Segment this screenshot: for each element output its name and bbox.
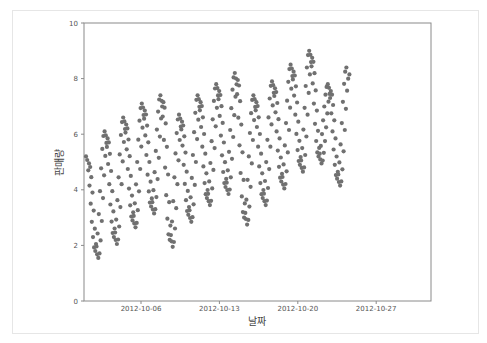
data-point (171, 245, 175, 249)
data-point (131, 210, 135, 214)
data-point (165, 217, 169, 221)
data-point (237, 83, 241, 87)
data-point (293, 113, 297, 117)
data-point (98, 189, 102, 193)
data-point (322, 151, 326, 155)
data-point (343, 70, 347, 74)
data-point (218, 93, 222, 97)
data-point (232, 113, 236, 117)
data-point (175, 182, 179, 186)
data-point (287, 128, 291, 132)
data-point (298, 163, 302, 167)
data-point (171, 199, 175, 203)
data-point (152, 211, 156, 215)
data-point (196, 93, 200, 97)
data-point (294, 84, 298, 88)
data-point (309, 64, 313, 68)
data-point (209, 199, 213, 203)
data-point (122, 140, 126, 144)
data-point (215, 86, 219, 90)
y-axis-ticks: 0246810 (69, 20, 84, 306)
data-point (273, 110, 277, 114)
data-point (210, 139, 214, 143)
data-point (308, 53, 312, 57)
data-point (84, 154, 88, 158)
data-point (312, 102, 316, 106)
x-axis-ticks: 2012-10-062012-10-132012-10-202012-10-27 (121, 301, 397, 313)
data-point (340, 167, 344, 171)
data-point (288, 106, 292, 110)
data-point (344, 107, 348, 111)
data-point (329, 111, 333, 115)
data-point (254, 108, 258, 112)
data-point (204, 171, 208, 175)
data-point (237, 143, 241, 147)
data-point (219, 104, 223, 108)
data-point (118, 205, 122, 209)
data-point (181, 123, 185, 127)
data-point (100, 219, 104, 223)
data-point (117, 175, 121, 179)
data-point (155, 128, 159, 132)
data-point (211, 117, 215, 121)
data-point (260, 171, 264, 175)
data-point (153, 170, 157, 174)
data-point (257, 115, 261, 119)
data-point (128, 203, 132, 207)
data-point (112, 235, 116, 239)
data-point (285, 99, 289, 103)
data-point (335, 177, 339, 181)
data-point (97, 212, 101, 216)
data-point (282, 162, 286, 166)
data-point (174, 206, 178, 210)
data-point (150, 196, 154, 200)
data-point (173, 151, 177, 155)
data-point (140, 102, 144, 106)
data-point (139, 145, 143, 149)
data-point (339, 179, 343, 183)
data-point (162, 138, 166, 142)
data-point (276, 117, 280, 121)
data-point (344, 65, 348, 69)
data-point (201, 115, 205, 119)
data-point (132, 214, 136, 218)
data-point (85, 158, 89, 162)
data-point (223, 160, 227, 164)
data-point (246, 178, 250, 182)
data-point (333, 136, 337, 140)
data-point (283, 143, 287, 147)
data-point (113, 226, 117, 230)
data-point (145, 124, 149, 128)
data-point (342, 149, 346, 153)
data-point (182, 134, 186, 138)
data-point (296, 148, 300, 152)
data-point (226, 192, 230, 196)
data-point (304, 134, 308, 138)
data-point (136, 208, 140, 212)
data-point (116, 237, 120, 241)
data-point (107, 182, 111, 186)
data-point (169, 233, 173, 237)
data-point (158, 93, 162, 97)
data-point (140, 126, 144, 130)
data-point (293, 73, 297, 77)
data-point (230, 157, 234, 161)
data-point (144, 112, 148, 116)
data-point (243, 211, 247, 215)
x-axis-label: 날짜 (248, 316, 266, 327)
data-point (280, 175, 284, 179)
data-point (137, 189, 141, 193)
data-point (90, 191, 94, 195)
data-point (135, 160, 139, 164)
x-tick-label: 2012-10-27 (356, 305, 397, 313)
data-point (211, 168, 215, 172)
data-point (199, 125, 203, 129)
data-point (166, 172, 170, 176)
data-point (264, 160, 268, 164)
data-point (284, 121, 288, 125)
data-point (146, 173, 150, 177)
data-point (302, 165, 306, 169)
data-point (96, 256, 100, 260)
data-point (147, 160, 151, 164)
data-point (347, 72, 351, 76)
